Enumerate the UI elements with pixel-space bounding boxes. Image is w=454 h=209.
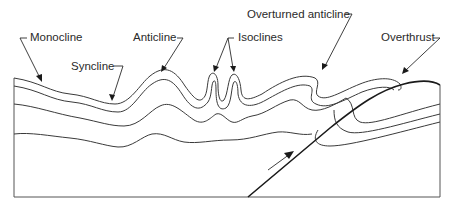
stratum-hangingwall-1 xyxy=(346,98,440,123)
leader-isoclines-right xyxy=(228,38,233,68)
geology-fold-diagram: Monocline Syncline Anticline Isoclines O… xyxy=(0,0,454,209)
leader-monocline xyxy=(20,38,40,78)
leader-overturned-anticline-arrow-icon xyxy=(322,63,328,70)
label-overturned-anticline: Overturned anticline xyxy=(247,8,350,20)
leader-overturned-anticline xyxy=(325,14,352,66)
thrust-direction-shaft xyxy=(268,154,290,170)
leader-syncline xyxy=(113,66,123,97)
cross-section-svg: Monocline Syncline Anticline Isoclines O… xyxy=(0,0,454,209)
overthrust-fault-line xyxy=(248,81,440,197)
label-isoclines: Isoclines xyxy=(238,31,283,43)
leader-isoclines-left-arrow-icon xyxy=(213,65,219,72)
label-syncline: Syncline xyxy=(71,60,114,72)
stratum-fourth xyxy=(14,132,312,147)
leader-anticline-arrow-icon xyxy=(161,65,167,72)
stratum-second xyxy=(14,79,394,112)
stratum-third xyxy=(14,98,346,126)
label-monocline: Monocline xyxy=(30,31,82,43)
label-overthrust: Overthrust xyxy=(381,31,435,43)
leader-isoclines-right-arrow-icon xyxy=(230,66,236,72)
leader-syncline-arrow-icon xyxy=(109,94,115,101)
leader-monocline-arrow-icon xyxy=(36,74,42,82)
stratum-top xyxy=(14,70,401,104)
leader-isoclines-left xyxy=(216,38,234,68)
label-anticline: Anticline xyxy=(133,31,176,43)
